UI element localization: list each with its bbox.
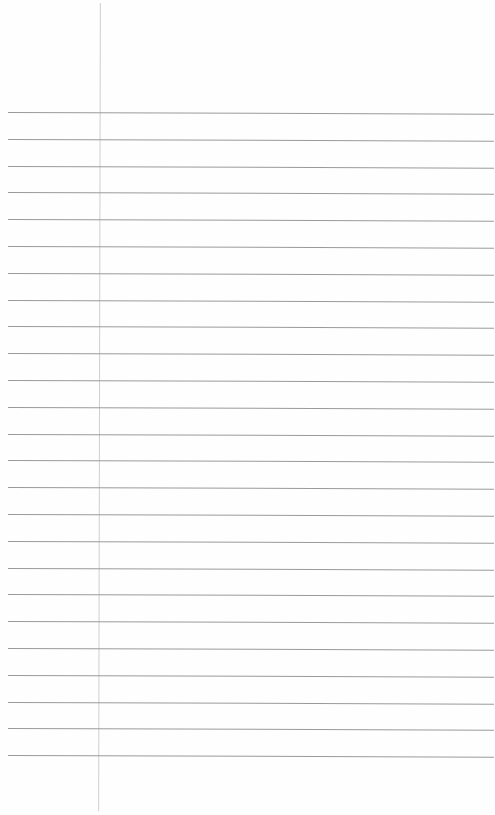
ruled-line [8, 541, 494, 544]
ruled-line [8, 702, 494, 705]
ruled-line [8, 380, 494, 383]
ruled-line [8, 192, 494, 195]
ruled-line [8, 487, 494, 490]
ruled-line [8, 139, 494, 142]
ruled-line [8, 755, 494, 758]
ruled-line [8, 219, 494, 222]
ruled-line [8, 728, 494, 731]
ruled-line [8, 460, 494, 463]
ruled-line [8, 407, 494, 410]
ruled-line [8, 594, 494, 597]
ruled-paper-sheet [0, 0, 495, 815]
ruled-line [8, 246, 494, 249]
ruled-line [8, 166, 494, 169]
ruled-line [8, 621, 494, 624]
ruled-line [8, 353, 494, 356]
ruled-line [8, 434, 494, 437]
ruled-line [8, 300, 494, 303]
ruled-line [8, 675, 494, 678]
ruled-line [8, 568, 494, 571]
ruled-line [8, 112, 494, 115]
ruled-line [8, 326, 494, 329]
ruled-line [8, 273, 494, 276]
ruled-line [8, 648, 494, 651]
ruled-line [8, 514, 494, 517]
